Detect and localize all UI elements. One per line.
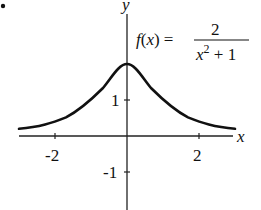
y-axis-label: y: [120, 0, 130, 14]
bullet-dot: [1, 4, 5, 8]
x-axis-label: x: [236, 127, 245, 146]
function-denominator: x2 + 1: [195, 42, 236, 64]
function-label-lhs: f(x) =: [136, 30, 173, 49]
y-tick-label-neg1: -1: [103, 163, 117, 182]
x-tick-label-neg2: -2: [45, 146, 59, 165]
y-tick-label-1: 1: [111, 91, 120, 110]
function-numerator: 2: [211, 20, 220, 39]
function-graph: -2 2 1 -1 x y f(x) = 2 x2 + 1: [0, 0, 261, 210]
x-tick-label-2: 2: [193, 146, 202, 165]
